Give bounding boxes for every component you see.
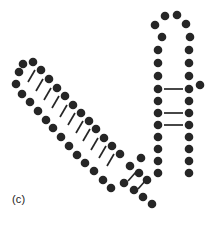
helix-bond — [60, 105, 67, 117]
nucleotide-dot — [154, 121, 163, 130]
nucleotide-dot — [81, 159, 90, 168]
nucleotide-dot — [182, 20, 191, 29]
nucleotide-dot — [15, 68, 24, 77]
nucleotide-dot — [107, 184, 116, 193]
helix-bond — [44, 88, 51, 100]
helix-bond — [28, 70, 35, 82]
nucleotide-dot — [34, 107, 43, 116]
rna-secondary-structure-figure: (c) — [0, 0, 207, 227]
nucleotide-dot — [154, 97, 163, 106]
nucleotide-dot — [148, 200, 157, 209]
helix-bond — [107, 154, 114, 166]
nucleotide-dot — [57, 133, 66, 142]
nucleotide-dot — [185, 169, 194, 178]
nucleotide-dot — [137, 154, 146, 163]
nucleotide-dot — [116, 150, 125, 159]
structure-canvas — [0, 0, 207, 227]
nucleotide-dot — [185, 46, 194, 55]
helix-bond — [99, 146, 106, 158]
nucleotide-dot — [185, 85, 194, 94]
nucleotide-dot — [53, 84, 62, 93]
nucleotide-dot — [185, 145, 194, 154]
nucleotide-dot — [151, 21, 160, 30]
nucleotide-dot — [154, 145, 163, 154]
helix-bond — [76, 121, 83, 133]
nucleotide-dot — [29, 58, 38, 67]
nucleotide-dot — [154, 109, 163, 118]
nucleotide-dot — [37, 66, 46, 75]
nucleotide-dot — [42, 116, 51, 125]
nucleotide-dot — [26, 98, 35, 107]
nucleotide-dot — [185, 157, 194, 166]
nucleotide-dot — [154, 169, 163, 178]
nucleotide-dot — [173, 11, 182, 20]
nucleotide-dot — [185, 109, 194, 118]
nucleotide-dot — [154, 133, 163, 142]
nucleotide-dot — [49, 124, 58, 133]
nucleotide-dot — [12, 80, 21, 89]
nucleotide-dot — [154, 59, 163, 68]
nucleotide-dot — [126, 162, 135, 171]
panel-label: (c) — [12, 194, 25, 205]
nucleotide-dot — [186, 33, 195, 42]
nucleotide-dot — [45, 75, 54, 84]
nucleotide-dot — [143, 176, 152, 185]
nucleotide-dot — [18, 90, 27, 99]
nucleotide-dot — [154, 85, 163, 94]
nucleotide-dot — [135, 169, 144, 178]
helix-bond — [91, 138, 98, 150]
nucleotide-dot — [158, 33, 167, 42]
nucleotide-dot — [154, 157, 163, 166]
nucleotide-dot — [161, 12, 170, 21]
nucleotide-layer — [12, 11, 205, 209]
nucleotide-dot — [92, 125, 101, 134]
nucleotide-dot — [61, 92, 70, 101]
nucleotide-dot — [73, 151, 82, 160]
nucleotide-dot — [196, 81, 205, 90]
nucleotide-dot — [185, 97, 194, 106]
nucleotide-dot — [19, 60, 28, 69]
nucleotide-dot — [120, 179, 129, 188]
nucleotide-dot — [100, 134, 109, 143]
nucleotide-dot — [185, 121, 194, 130]
helix-bond — [83, 129, 90, 141]
nucleotide-dot — [139, 193, 148, 202]
nucleotide-dot — [185, 133, 194, 142]
nucleotide-dot — [99, 176, 108, 185]
nucleotide-dot — [85, 117, 94, 126]
nucleotide-dot — [185, 72, 194, 81]
nucleotide-dot — [154, 46, 163, 55]
nucleotide-dot — [130, 186, 139, 195]
helix-bond — [68, 113, 75, 125]
nucleotide-dot — [154, 72, 163, 81]
helix-bond — [52, 96, 59, 108]
nucleotide-dot — [90, 167, 99, 176]
nucleotide-dot — [69, 101, 78, 110]
nucleotide-dot — [65, 142, 74, 151]
helix-bond — [36, 79, 43, 91]
nucleotide-dot — [77, 109, 86, 118]
nucleotide-dot — [185, 59, 194, 68]
nucleotide-dot — [108, 142, 117, 151]
